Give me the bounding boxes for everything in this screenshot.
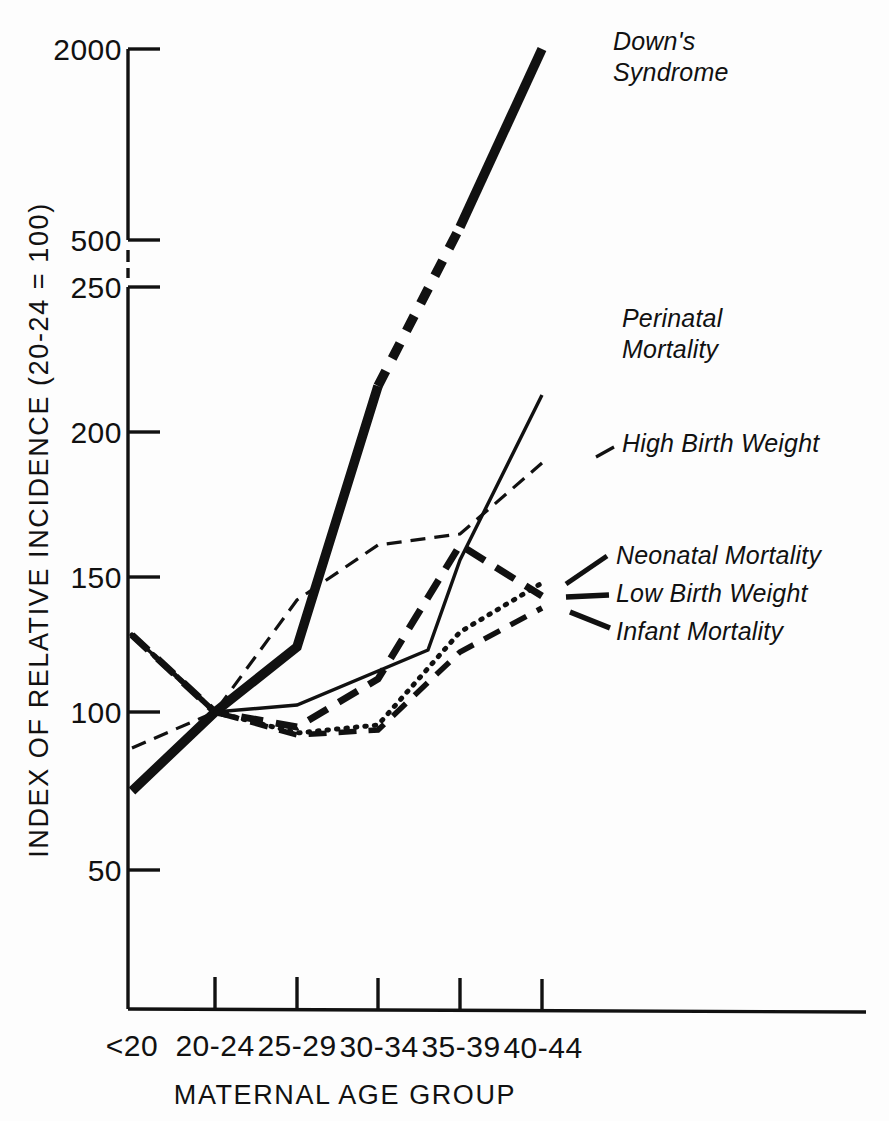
y-tick-label-50: 50 bbox=[88, 854, 122, 887]
x-axis-ticks bbox=[215, 977, 542, 1011]
y-tick-labels: 2000 500 250 200 150 100 50 bbox=[53, 33, 122, 887]
series-downs-syndrome bbox=[132, 49, 542, 791]
y-tick-label-200: 200 bbox=[70, 416, 122, 449]
x-tick-label-35-39: 35-39 bbox=[421, 1030, 500, 1063]
chart-canvas: 2000 500 250 200 150 100 50 <20 20-24 25… bbox=[0, 0, 889, 1121]
y-axis-title: INDEX OF RELATIVE INCIDENCE (20-24 = 100… bbox=[24, 202, 54, 858]
x-axis-title: MATERNAL AGE GROUP bbox=[174, 1080, 516, 1110]
series-label-perinatal-mortality: Perinatal Mortality bbox=[622, 304, 724, 363]
y-tick-label-150: 150 bbox=[70, 561, 122, 594]
label-leader-lines bbox=[566, 447, 614, 628]
series-infant-mortality bbox=[132, 608, 542, 735]
series-label-downs-syndrome-line2: Syndrome bbox=[613, 58, 729, 86]
y-tick-label-100: 100 bbox=[70, 696, 122, 729]
series-label-neonatal-mortality: Neonatal Mortality bbox=[616, 541, 822, 569]
x-tick-label-30-34: 30-34 bbox=[339, 1030, 418, 1063]
series-downs-syndrome-dashed-break bbox=[378, 227, 460, 386]
x-tick-label-under20: <20 bbox=[106, 1029, 158, 1062]
series-label-infant-mortality: Infant Mortality bbox=[616, 617, 784, 645]
x-tick-label-20-24: 20-24 bbox=[175, 1029, 254, 1062]
leader-neonatal-mortality bbox=[566, 556, 607, 584]
y-tick-label-2000: 2000 bbox=[53, 33, 122, 66]
series-label-downs-syndrome: Down's Syndrome bbox=[613, 27, 729, 86]
series-label-downs-syndrome-line1: Down's bbox=[613, 27, 695, 55]
x-tick-label-25-29: 25-29 bbox=[257, 1029, 336, 1062]
x-axis bbox=[128, 1009, 866, 1012]
series-label-perinatal-mortality-line1: Perinatal bbox=[622, 304, 724, 332]
leader-high-birth-weight bbox=[596, 447, 614, 457]
x-tick-labels: <20 20-24 25-29 30-34 35-39 40-44 bbox=[106, 1029, 583, 1064]
y-tick-label-250: 250 bbox=[70, 271, 122, 304]
series-label-high-birth-weight: High Birth Weight bbox=[622, 429, 820, 457]
series-label-perinatal-mortality-line2: Mortality bbox=[622, 335, 720, 363]
leader-low-birth-weight bbox=[566, 595, 609, 597]
series-label-low-birth-weight: Low Birth Weight bbox=[616, 579, 809, 607]
chart-figure: 2000 500 250 200 150 100 50 <20 20-24 25… bbox=[0, 0, 889, 1121]
axis-lines bbox=[128, 49, 866, 1012]
series-perinatal-mortality bbox=[132, 395, 542, 712]
x-tick-label-40-44: 40-44 bbox=[503, 1031, 582, 1064]
series-neonatal-mortality bbox=[132, 583, 542, 733]
series-downs-syndrome-solid-upper bbox=[460, 49, 542, 227]
y-tick-label-500: 500 bbox=[70, 224, 122, 257]
leader-infant-mortality bbox=[570, 612, 610, 628]
